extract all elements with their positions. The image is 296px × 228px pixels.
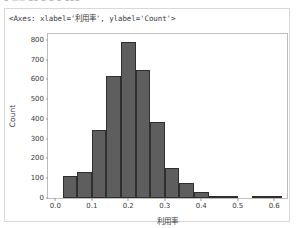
x-tick-mark bbox=[91, 198, 92, 201]
histogram-bar bbox=[92, 130, 107, 198]
histogram-bar bbox=[165, 168, 180, 198]
y-axis-label: Count bbox=[8, 105, 17, 127]
histogram-figure: 01002003004005006007008000.00.10.20.30.4… bbox=[5, 17, 291, 222]
y-tick-label: 700 bbox=[31, 56, 48, 64]
notebook-output-cell: <Axes: xlabel='利用率', ylabel='Count'> 010… bbox=[4, 8, 290, 222]
histogram-bar bbox=[179, 183, 194, 198]
x-tick-label: 0.4 bbox=[196, 202, 207, 210]
x-tick-label: 0.3 bbox=[159, 202, 170, 210]
histogram-bar bbox=[63, 176, 78, 198]
histogram-bar bbox=[223, 196, 238, 198]
y-tick-label: 0 bbox=[40, 194, 48, 202]
x-tick-mark bbox=[128, 198, 129, 201]
x-tick-label: 0.1 bbox=[86, 202, 97, 210]
plot-area: 01002003004005006007008000.00.10.20.30.4… bbox=[47, 33, 288, 199]
histogram-bar bbox=[209, 196, 224, 198]
x-tick-label: 0.6 bbox=[269, 202, 280, 210]
histogram-bar bbox=[136, 70, 151, 198]
histogram-bar bbox=[77, 172, 92, 198]
y-tick-label: 300 bbox=[31, 135, 48, 143]
x-tick-mark bbox=[55, 198, 56, 201]
histogram-bar bbox=[252, 196, 267, 198]
clipped-top-row: ▪ ▬▬ ▪▪ ▪ ▪ ▪ ▪▪▪ bbox=[0, 0, 296, 7]
y-tick-label: 200 bbox=[31, 154, 48, 162]
x-tick-label: 0.5 bbox=[232, 202, 243, 210]
y-tick-label: 600 bbox=[31, 75, 48, 83]
y-tick-label: 500 bbox=[31, 95, 48, 103]
y-tick-label: 800 bbox=[31, 36, 48, 44]
x-axis-label: 利用率 bbox=[47, 215, 288, 226]
y-tick-label: 100 bbox=[31, 174, 48, 182]
x-tick-mark bbox=[237, 198, 238, 201]
histogram-bar bbox=[121, 42, 136, 198]
histogram-bar bbox=[106, 76, 121, 199]
x-tick-label: 0.2 bbox=[123, 202, 134, 210]
x-tick-mark bbox=[164, 198, 165, 201]
x-tick-mark bbox=[201, 198, 202, 201]
histogram-bar bbox=[150, 122, 165, 198]
y-tick-label: 400 bbox=[31, 115, 48, 123]
x-tick-label: 0.0 bbox=[50, 202, 61, 210]
x-tick-mark bbox=[274, 198, 275, 201]
clipped-top-row-text: ▪ ▬▬ ▪▪ ▪ ▪ ▪ ▪▪▪ bbox=[4, 0, 80, 3]
